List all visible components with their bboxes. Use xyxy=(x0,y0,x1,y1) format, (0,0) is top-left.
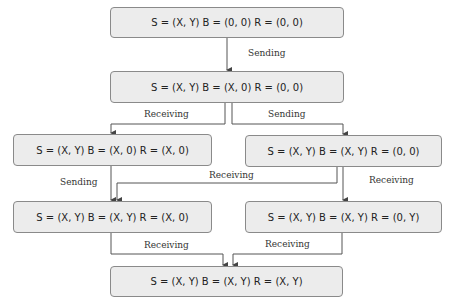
state-node-4: S = (X, Y) B = (X, Y) R = (0, 0) xyxy=(245,135,442,167)
diagram-canvas: S = (X, Y) B = (0, 0) R = (0, 0) S = (X,… xyxy=(0,0,452,307)
state-node-2: S = (X, Y) B = (X, 0) R = (0, 0) xyxy=(110,71,344,103)
state-node-5: S = (X, Y) B = (X, Y) R = (X, 0) xyxy=(13,201,212,233)
edge-label-n2-n3: Receiving xyxy=(144,109,189,119)
edge-label-n4-n6: Receiving xyxy=(369,175,414,185)
state-node-1: S = (X, Y) B = (0, 0) R = (0, 0) xyxy=(110,7,344,38)
edge-label-n1-n2: Sending xyxy=(248,48,286,58)
edge-label-n5-n7: Receiving xyxy=(144,240,189,250)
state-node-6: S = (X, Y) B = (X, Y) R = (0, Y) xyxy=(245,201,442,233)
edge-label-n4-n5: Receiving xyxy=(209,170,254,180)
edge-label-n6-n7: Receiving xyxy=(265,239,310,249)
state-node-7: S = (X, Y) B = (X, Y) R = (X, Y) xyxy=(110,266,343,297)
edge-label-n3-n5: Sending xyxy=(60,177,98,187)
edge-label-n2-n4: Sending xyxy=(268,109,306,119)
state-node-3: S = (X, Y) B = (X, 0) R = (X, 0) xyxy=(13,134,212,166)
